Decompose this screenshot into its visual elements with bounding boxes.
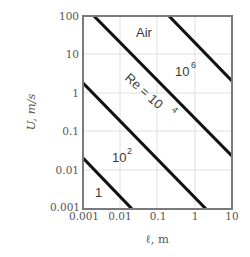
- y-tick: 100: [59, 10, 79, 22]
- line-re-1: [83, 158, 132, 209]
- svg-text:Re = 10: Re = 10: [122, 70, 166, 112]
- x-tick: 0.01: [108, 210, 131, 222]
- y-tick: 0.01: [56, 164, 79, 176]
- y-axis-label: U, m/s: [24, 94, 38, 131]
- x-axis-label: ℓ, m: [145, 232, 169, 246]
- y-tick: 0.1: [62, 125, 79, 137]
- x-tick: 1: [192, 210, 199, 222]
- reynolds-number-chart: 100 10 1 0.1 0.01 0.001 0.001 0.01 0.1 1…: [0, 0, 250, 257]
- svg-text:10: 10: [175, 64, 189, 79]
- svg-text:10: 10: [112, 150, 126, 165]
- fluid-label: Air: [136, 25, 153, 40]
- y-tick: 10: [66, 48, 79, 60]
- label-re-1: 1: [95, 185, 102, 200]
- line-re-1e4: [94, 16, 232, 156]
- svg-text:6: 6: [191, 60, 196, 70]
- x-tick: 0.001: [69, 210, 99, 222]
- svg-text:4: 4: [170, 105, 180, 116]
- y-tick: 1: [72, 87, 79, 99]
- x-tick: 0.1: [150, 210, 167, 222]
- svg-text:2: 2: [127, 146, 132, 156]
- y-tick-labels: 100 10 1 0.1 0.01 0.001: [50, 10, 80, 213]
- label-re-1e2: 10 2: [112, 146, 132, 165]
- x-tick-labels: 0.001 0.01 0.1 1 10: [69, 210, 239, 222]
- label-re-1e6: 10 6: [175, 60, 196, 79]
- x-tick: 10: [225, 210, 238, 222]
